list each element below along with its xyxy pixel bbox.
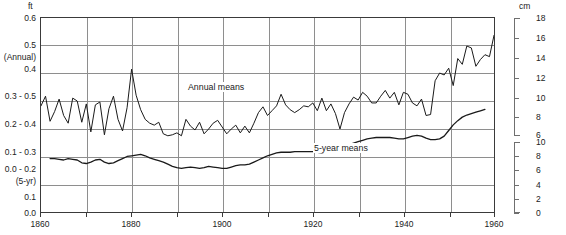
x-tick-mark-1940 bbox=[404, 213, 405, 217]
y-tick-left-5: 0.2 - 0.4 bbox=[0, 119, 36, 129]
y-tick-right-upper-16: 16 bbox=[536, 33, 545, 43]
right-tick-mark-u6 bbox=[514, 135, 519, 136]
y-tick-left-0: 0.6 bbox=[0, 13, 36, 23]
right-tick-mark-l5 bbox=[514, 213, 519, 214]
y-tick-left-4: 0.3 - 0.5 bbox=[0, 91, 36, 101]
y-tick-right-lower-6: 6 bbox=[536, 165, 541, 175]
annotation-annual-means: Annual means bbox=[187, 82, 245, 92]
x-tick-mark-1860 bbox=[40, 213, 41, 217]
series-lines-svg bbox=[41, 18, 494, 212]
y-tick-left-1: 0.5 bbox=[0, 40, 36, 50]
x-tick-mark-1910 bbox=[268, 213, 269, 217]
y-tick-left-9: 0.1 bbox=[0, 192, 36, 202]
y-tick-left-annual-note: (Annual) bbox=[0, 52, 36, 62]
x-tick-mark-1870 bbox=[86, 213, 87, 217]
y-tick-left-10: 0.0 bbox=[0, 208, 36, 218]
annotation-five-year-means: 5-year means bbox=[313, 143, 369, 153]
y-tick-left-6: 0.1 - 0.3 bbox=[0, 147, 36, 157]
x-tick-mark-1890 bbox=[177, 213, 178, 217]
x-tick-label-1880: 1880 bbox=[111, 219, 151, 229]
right-tick-mark-l3 bbox=[514, 185, 519, 186]
x-tick-mark-1930 bbox=[359, 213, 360, 217]
annual-means-line bbox=[41, 35, 494, 135]
x-tick-mark-1880 bbox=[131, 213, 132, 217]
x-tick-label-1860: 1860 bbox=[20, 219, 60, 229]
y-tick-right-lower-2: 2 bbox=[536, 194, 541, 204]
x-tick-mark-1960 bbox=[494, 213, 495, 217]
right-scale-bracket-lower bbox=[514, 142, 520, 213]
right-tick-mark-u2 bbox=[514, 58, 519, 59]
y-tick-left-7: 0.0 - 0.2 bbox=[0, 164, 36, 174]
y-tick-right-lower-10: 10 bbox=[536, 137, 545, 147]
right-axis-unit-label: cm bbox=[519, 2, 530, 11]
y-tick-left-3: 0.4 bbox=[0, 64, 36, 74]
right-tick-mark-u5 bbox=[514, 117, 519, 118]
y-tick-left-5yr-note: (5-yr) bbox=[0, 176, 36, 186]
plot-area: Annual means 5-year means bbox=[40, 17, 495, 213]
right-tick-mark-l2 bbox=[514, 170, 519, 171]
right-tick-mark-u0 bbox=[514, 18, 519, 19]
y-tick-right-lower-4: 4 bbox=[536, 180, 541, 190]
y-tick-right-upper-14: 14 bbox=[536, 53, 545, 63]
x-tick-label-1940: 1940 bbox=[384, 219, 424, 229]
x-tick-mark-1900 bbox=[222, 213, 223, 217]
y-tick-right-lower-0: 0 bbox=[536, 208, 541, 218]
y-tick-right-lower-8: 8 bbox=[536, 151, 541, 161]
x-tick-mark-1920 bbox=[313, 213, 314, 217]
x-tick-label-1920: 1920 bbox=[293, 219, 333, 229]
right-tick-mark-u3 bbox=[514, 78, 519, 79]
right-tick-mark-u1 bbox=[514, 38, 519, 39]
y-tick-right-upper-18: 18 bbox=[536, 13, 545, 23]
right-tick-mark-l0 bbox=[514, 142, 519, 143]
x-tick-label-1960: 1960 bbox=[474, 219, 514, 229]
right-tick-mark-u4 bbox=[514, 98, 519, 99]
y-tick-right-upper-12: 12 bbox=[536, 73, 545, 83]
right-tick-mark-l4 bbox=[514, 199, 519, 200]
left-axis-unit-label: ft bbox=[28, 2, 33, 11]
chart-root: ft cm 0.6 0.5 (Annual) 0.4 0.3 - 0.5 0.2… bbox=[0, 0, 566, 235]
y-tick-right-upper-10: 10 bbox=[536, 93, 545, 103]
right-tick-mark-l1 bbox=[514, 156, 519, 157]
x-tick-label-1900: 1900 bbox=[202, 219, 242, 229]
y-tick-right-upper-8: 8 bbox=[536, 112, 541, 122]
five-year-means-line bbox=[50, 109, 485, 168]
right-scale-bracket-upper bbox=[514, 18, 520, 136]
x-tick-mark-1950 bbox=[450, 213, 451, 217]
